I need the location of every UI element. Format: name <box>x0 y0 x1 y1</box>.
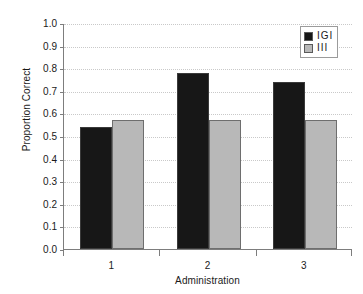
bar <box>273 82 305 249</box>
x-axis-tick <box>351 250 352 256</box>
bar <box>209 120 241 249</box>
y-axis-tick <box>60 182 64 183</box>
x-axis-tick-label: 3 <box>284 260 324 271</box>
y-axis-tick <box>60 24 64 25</box>
x-axis-tick-label: 2 <box>188 260 228 271</box>
bar <box>80 127 112 249</box>
y-axis-tick <box>60 205 64 206</box>
y-axis-tick <box>60 69 64 70</box>
y-axis-tick <box>60 227 64 228</box>
y-axis-tick <box>60 160 64 161</box>
y-axis-tick-label: 0.1 <box>1 222 57 232</box>
bar <box>177 73 209 249</box>
bar <box>305 120 337 249</box>
legend-item-label: III <box>317 43 328 53</box>
legend-item: III <box>304 42 333 54</box>
x-axis-tick <box>159 250 160 256</box>
legend-swatch-icon <box>304 44 313 53</box>
y-axis-tick-label: 0.6 <box>1 109 57 119</box>
y-axis-tick-label: 0.2 <box>1 200 57 210</box>
bar-group <box>177 24 241 249</box>
y-axis-tick-labels: 1.00.90.80.70.60.50.40.30.20.10.0 <box>0 24 57 250</box>
legend-swatch-icon <box>304 32 313 41</box>
y-axis-tick <box>60 137 64 138</box>
bar-group <box>80 24 144 249</box>
y-axis-tick <box>60 47 64 48</box>
y-axis-tick-label: 0.7 <box>1 87 57 97</box>
y-axis-tick-label: 0.9 <box>1 42 57 52</box>
bar <box>112 120 144 249</box>
y-axis-tick-label: 0.4 <box>1 155 57 165</box>
y-axis-tick <box>60 114 64 115</box>
x-axis-tick-label: 1 <box>91 260 131 271</box>
y-axis-tick-label: 1.0 <box>1 19 57 29</box>
chart-legend: IGIIII <box>300 26 338 58</box>
bar-chart-figure: Proportion Correct 1.00.90.80.70.60.50.4… <box>0 0 363 294</box>
legend-item: IGI <box>304 30 333 42</box>
y-axis-tick <box>60 92 64 93</box>
y-axis-tick-label: 0.8 <box>1 64 57 74</box>
y-axis-tick-label: 0.3 <box>1 177 57 187</box>
y-axis-tick-label: 0.5 <box>1 132 57 142</box>
x-axis-tick <box>256 250 257 256</box>
x-axis-title: Administration <box>63 275 352 286</box>
x-axis-tick <box>63 250 64 256</box>
legend-item-label: IGI <box>317 31 333 41</box>
y-axis-tick-label: 0.0 <box>1 245 57 255</box>
